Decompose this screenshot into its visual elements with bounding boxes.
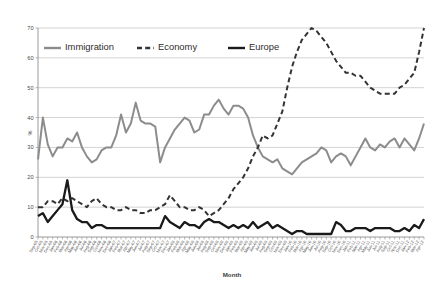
y-tick-label: 60 bbox=[27, 55, 33, 61]
y-tick-label: 30 bbox=[27, 144, 33, 150]
legend-label-economy: Economy bbox=[158, 41, 197, 52]
x-axis-title: Month bbox=[223, 271, 242, 278]
y-tick-label: 40 bbox=[27, 115, 33, 121]
y-tick-label: 20 bbox=[27, 174, 33, 180]
series-line-immigration bbox=[38, 100, 424, 175]
y-tick-label: 70 bbox=[27, 25, 33, 31]
chart-container: 010203040506070 Sep-05Oct-05Nov-05Dec-05… bbox=[0, 0, 432, 289]
gridlines-group bbox=[38, 28, 424, 207]
x-tick-labels-group: Sep-05Oct-05Nov-05Dec-05Jan-06Feb-06Mar-… bbox=[28, 239, 425, 254]
legend-group: ImmigrationEconomyEurope bbox=[44, 41, 279, 52]
legend-label-immigration: Immigration bbox=[65, 41, 114, 52]
y-tick-label: 10 bbox=[27, 204, 33, 210]
y-axis-title: % bbox=[27, 130, 33, 135]
x-axis-group bbox=[38, 28, 424, 240]
legend-label-europe: Europe bbox=[249, 41, 279, 52]
y-tick-label: 0 bbox=[30, 234, 33, 240]
y-tick-label: 50 bbox=[27, 85, 33, 91]
series-line-economy bbox=[38, 28, 424, 216]
line-chart: 010203040506070 Sep-05Oct-05Nov-05Dec-05… bbox=[0, 0, 432, 289]
data-series-group bbox=[38, 28, 424, 234]
